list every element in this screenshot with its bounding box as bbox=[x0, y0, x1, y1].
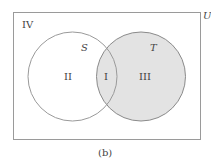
region-outside-label: IV bbox=[22, 19, 34, 30]
region-s-only-label: II bbox=[64, 71, 72, 82]
universe-label: U bbox=[203, 10, 211, 21]
caption: (b) bbox=[98, 147, 112, 158]
set-s-label: S bbox=[81, 42, 88, 53]
region-intersection-label: I bbox=[104, 71, 108, 82]
venn-diagram: IV U S T II I III (b) bbox=[0, 0, 211, 164]
region-t-only-label: III bbox=[139, 71, 151, 82]
